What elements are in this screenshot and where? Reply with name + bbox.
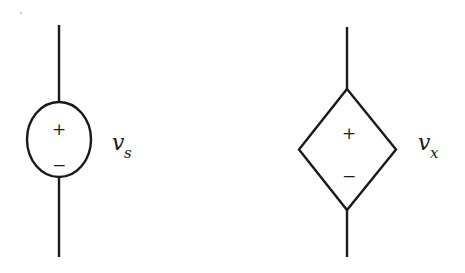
stray-dot [20, 12, 22, 14]
source-label-subscript: s [124, 144, 132, 162]
plus-sign: + [342, 123, 356, 143]
circuit-diagram: + − v s + − v x [0, 0, 465, 273]
dependent-voltage-source: + − v x [299, 27, 439, 257]
minus-sign: − [52, 155, 66, 175]
independent-voltage-source: + − v s [27, 25, 132, 257]
minus-sign: − [342, 166, 356, 186]
source-diamond [299, 89, 396, 210]
source-label-subscript: x [430, 144, 439, 162]
plus-sign: + [52, 119, 66, 139]
